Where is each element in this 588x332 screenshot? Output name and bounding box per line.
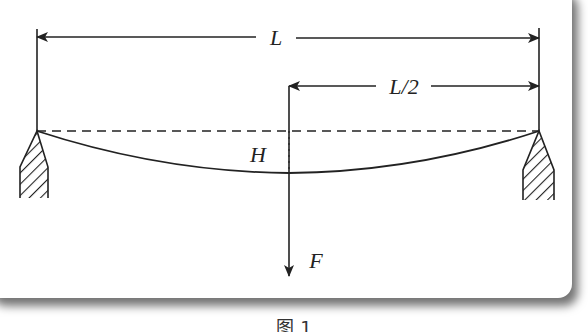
- beam-diagram: L L/2 H F: [0, 0, 588, 332]
- half-span-dimension: L/2: [289, 74, 539, 99]
- span-label: L: [269, 25, 282, 50]
- figure-caption: 图 1: [0, 318, 588, 332]
- right-support: [523, 131, 554, 200]
- half-span-label: L/2: [388, 74, 418, 99]
- force-label: F: [308, 248, 323, 273]
- deflection-label: H: [249, 142, 267, 167]
- force-arrow: F: [289, 86, 323, 276]
- span-dimension: L: [37, 25, 539, 50]
- figure: L L/2 H F 图 1: [0, 0, 588, 332]
- left-support: [20, 131, 48, 198]
- deflected-beam: [37, 131, 539, 173]
